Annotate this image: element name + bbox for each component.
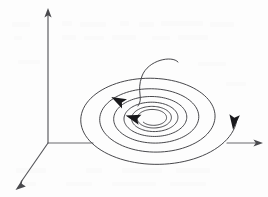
vertical-axis [44,8,51,143]
inner-flow-arrow [109,92,127,108]
incoming-trajectory-path [138,59,178,106]
figure-root [0,0,268,197]
spiral-group [81,59,237,164]
phase-portrait-svg [0,0,268,197]
inward-spiral-path [81,78,237,164]
outer-flow-arrow [228,114,240,130]
